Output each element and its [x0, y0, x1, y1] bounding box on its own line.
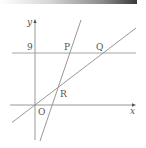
- x-axis: [10, 103, 136, 106]
- coordinate-diagram: y x 9 P Q R O: [0, 0, 146, 148]
- x-axis-label: x: [130, 106, 135, 116]
- y-value-9-label: 9: [27, 42, 33, 52]
- y-axis: [33, 19, 36, 140]
- origin-label: O: [38, 107, 45, 117]
- point-r-label: R: [60, 89, 67, 99]
- point-p-label: P: [64, 42, 70, 52]
- y-axis-label: y: [26, 17, 33, 27]
- steep-line: [40, 20, 81, 141]
- point-q-label: Q: [96, 42, 103, 52]
- y-axis-arrow-icon: [33, 19, 36, 23]
